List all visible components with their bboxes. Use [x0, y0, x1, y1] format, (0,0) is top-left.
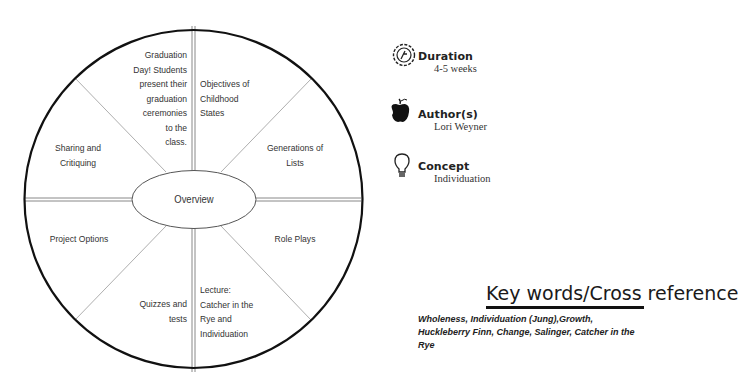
duration-block: Duration 4-5 weeks [418, 50, 477, 74]
concept-value: Individuation [434, 173, 491, 184]
segment-project-options: Project Options [35, 232, 123, 247]
apple-icon [388, 95, 412, 125]
segment-generations-of-lists: Generations of Lists [255, 141, 336, 170]
concept-block: Concept Individuation [418, 160, 491, 184]
segment-objectives: Objectives of Childhood States [200, 77, 281, 121]
author-block: Author(s) Lori Weyner [418, 108, 487, 132]
segment-role-plays: Role Plays [255, 232, 336, 247]
author-label: Author(s) [418, 108, 487, 121]
keywords-title: Key words/Cross reference [486, 282, 738, 304]
segment-lecture: Lecture: Catcher in the Rye and Individu… [200, 283, 290, 341]
author-value: Lori Weyner [434, 121, 487, 132]
lightbulb-icon [393, 152, 411, 180]
clock-badge-icon [392, 42, 416, 68]
duration-value: 4-5 weeks [434, 63, 477, 74]
keywords-underline [486, 306, 644, 309]
segment-quizzes: Quizzes and tests [118, 297, 187, 326]
segment-sharing: Sharing and Critiquing [37, 141, 120, 170]
wheel-center-label: Overview [158, 192, 230, 207]
concept-label: Concept [418, 160, 491, 173]
duration-label: Duration [418, 50, 477, 63]
segment-graduation-day: Graduation Day! Students present their g… [109, 48, 187, 150]
keywords-text: Wholeness, Individuation (Jung),Growth, … [418, 313, 638, 352]
